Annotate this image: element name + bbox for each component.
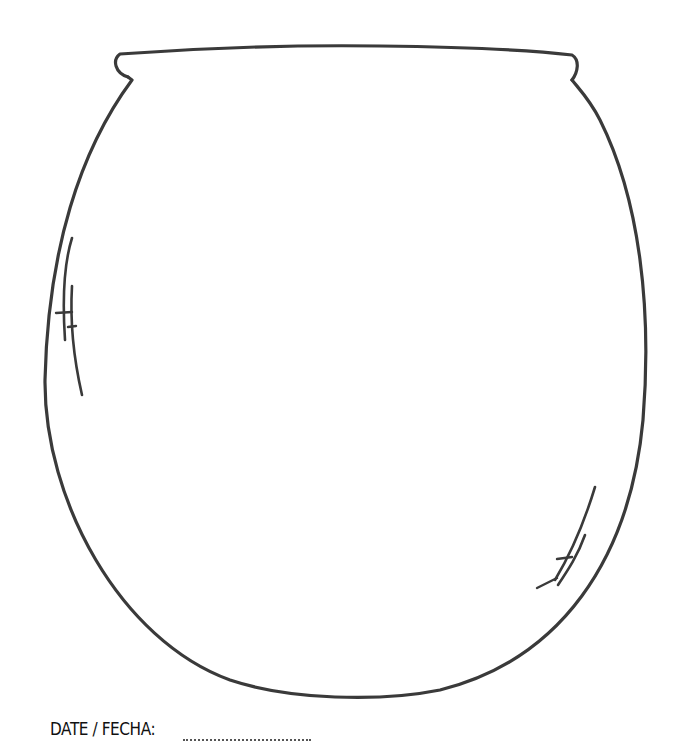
date-label: DATE / FECHA:	[50, 718, 155, 739]
date-field[interactable]	[183, 739, 311, 741]
pot-rim	[116, 46, 578, 80]
pot-body-outline	[45, 77, 646, 697]
pot-drawing	[0, 0, 682, 754]
right-highlight-mark	[558, 535, 585, 585]
left-highlight-mark	[71, 286, 82, 395]
right-highlight-mark	[555, 487, 595, 580]
